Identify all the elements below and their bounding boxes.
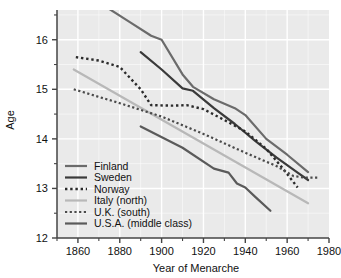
y-axis-label: Age [4, 110, 16, 130]
x-tick-label: 1880 [108, 245, 132, 257]
legend-label-4: U.K. (south) [94, 206, 150, 218]
x-tick-label: 1960 [275, 245, 299, 257]
legend-label-5: U.S.A. (middle class) [94, 217, 192, 229]
x-axis-label: Year of Menarche [153, 262, 239, 274]
chart-figure: 1860188019001920194019601980 1213141516 … [0, 0, 341, 278]
x-tick-label: 1860 [66, 245, 90, 257]
y-tick-label: 14 [36, 133, 48, 145]
x-tick-label: 1980 [317, 245, 341, 257]
legend-label-2: Norway [94, 183, 130, 195]
y-tick-label: 12 [36, 232, 48, 244]
legend-label-1: Sweden [94, 171, 132, 183]
x-tick-label: 1900 [149, 245, 173, 257]
x-tick-label: 1920 [191, 245, 215, 257]
y-tick-label: 16 [36, 34, 48, 46]
x-tick-label: 1940 [233, 245, 257, 257]
y-tick-label: 15 [36, 83, 48, 95]
y-tick-label: 13 [36, 182, 48, 194]
legend-label-0: Finland [94, 160, 129, 172]
legend-label-3: Italy (north) [94, 194, 147, 206]
